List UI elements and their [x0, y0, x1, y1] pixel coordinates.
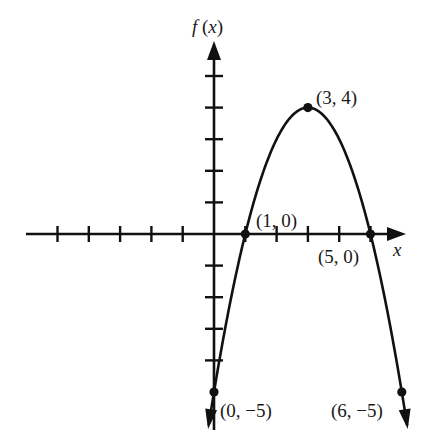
vertex-label: (3, 4)	[316, 87, 357, 109]
root-right-label: (5, 0)	[318, 246, 359, 268]
point-marker	[209, 387, 218, 396]
parabola-curve	[209, 108, 407, 426]
curve-right-arrow-icon	[399, 408, 411, 429]
marked-points	[209, 103, 406, 397]
y-axis-arrow-icon	[207, 41, 221, 60]
x-axis	[26, 226, 406, 242]
end-right-label: (6, −5)	[331, 400, 383, 422]
y-axis	[205, 41, 223, 430]
y-intercept-label: (0, −5)	[220, 400, 272, 422]
point-marker	[397, 387, 406, 396]
root-left-label: (1, 0)	[256, 210, 297, 232]
parabola-graph: f (x) x (3, 4) (1, 0) (5, 0) (0, −5) (6,…	[0, 0, 434, 446]
point-marker	[241, 229, 250, 238]
point-marker	[303, 103, 312, 112]
point-marker	[366, 229, 375, 238]
x-axis-label: x	[392, 239, 402, 260]
y-axis-label: f (x)	[192, 16, 223, 38]
